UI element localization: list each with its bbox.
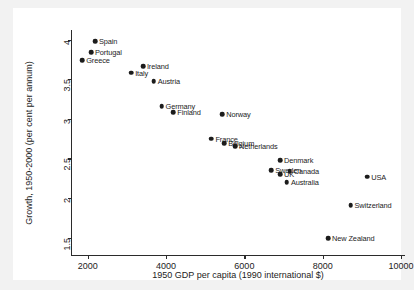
data-point-label: New Zealand	[332, 234, 374, 243]
data-point	[89, 50, 94, 55]
y-axis-tick-label: 1.5	[62, 238, 72, 251]
data-point-label: Australia	[291, 178, 319, 187]
y-axis-tick-label: 4	[62, 40, 72, 45]
data-point	[159, 104, 164, 109]
data-point-label: Italy	[135, 68, 148, 77]
data-point	[285, 180, 290, 185]
data-point-label: Ireland	[147, 62, 169, 71]
data-point	[278, 158, 283, 163]
x-axis-tick	[88, 255, 89, 259]
data-point	[93, 39, 98, 44]
x-axis-tick	[244, 255, 245, 259]
data-point	[171, 110, 176, 115]
data-point-label: Switzerland	[355, 201, 392, 210]
data-point	[151, 79, 156, 84]
y-axis-tick-label: 2	[62, 198, 72, 203]
data-point-label: USA	[371, 172, 386, 181]
data-point	[326, 236, 331, 241]
figure-container: Growth, 1950-2000 (per cent per annum) 1…	[0, 0, 414, 290]
x-axis-tick	[166, 255, 167, 259]
data-point	[220, 112, 225, 117]
y-axis-tick-label: 2.5	[62, 158, 72, 171]
x-axis-label: 1950 GDP per capita (1990 international …	[71, 270, 405, 280]
data-point-label: Austria	[158, 77, 180, 86]
x-axis-tick	[323, 255, 324, 259]
data-point	[269, 168, 274, 173]
x-axis-tick	[401, 255, 402, 259]
data-point	[209, 136, 214, 141]
data-point-label: Spain	[99, 37, 117, 46]
data-point	[348, 203, 353, 208]
data-point-label: Greece	[86, 56, 110, 65]
data-point-label: Finland	[177, 108, 201, 117]
data-point	[365, 174, 370, 179]
data-point	[222, 141, 227, 146]
data-point	[233, 144, 238, 149]
y-axis-tick-label: 3	[62, 119, 72, 124]
chart-canvas: Growth, 1950-2000 (per cent per annum) 1…	[13, 8, 401, 280]
data-point-label: Denmark	[284, 155, 313, 164]
data-point	[129, 70, 134, 75]
y-axis-label: Growth, 1950-2000 (per cent per annum)	[24, 61, 34, 225]
y-axis-tick-label: 3.5	[62, 79, 72, 92]
data-point	[80, 58, 85, 63]
data-point	[278, 172, 283, 177]
data-point-label: Canada	[294, 167, 319, 176]
data-point-label: Netherlands	[239, 142, 278, 151]
plot-area: 1.522.533.54200040006000800010000SpainPo…	[71, 30, 405, 256]
data-point-label: Norway	[226, 109, 250, 118]
